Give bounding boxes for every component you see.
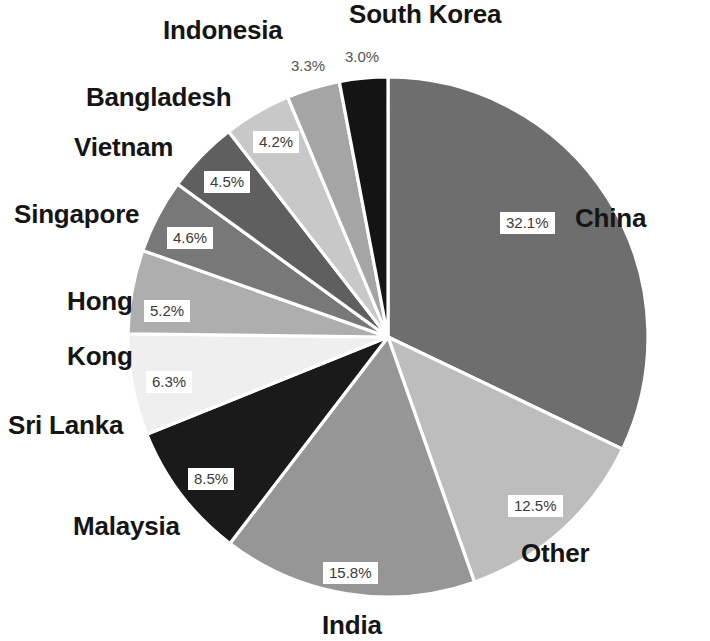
value-label-hong-kong: 5.2% xyxy=(144,300,190,322)
value-label-india: 15.8% xyxy=(323,562,378,584)
category-label-sri-lanka: Sri Lanka xyxy=(8,412,123,439)
value-label-other: 12.5% xyxy=(508,495,563,517)
category-label-china: China xyxy=(575,205,646,232)
category-label-hong-kong: Hong Kong xyxy=(39,261,133,397)
value-label-malaysia: 8.5% xyxy=(188,468,234,490)
category-label-hong-kong-line1: Hong xyxy=(67,286,133,316)
pie-slice-group xyxy=(128,77,648,597)
category-label-singapore: Singapore xyxy=(14,201,139,228)
value-label-bangladesh: 4.2% xyxy=(253,131,299,153)
value-label-sri-lanka: 6.3% xyxy=(146,371,192,393)
category-label-bangladesh: Bangladesh xyxy=(86,84,231,111)
category-label-malaysia: Malaysia xyxy=(73,513,180,540)
category-label-india: India xyxy=(322,612,382,639)
pie-chart-figure: China Other India Malaysia Sri Lanka Hon… xyxy=(0,0,710,641)
category-label-other: Other xyxy=(521,540,589,567)
category-label-vietnam: Vietnam xyxy=(74,134,173,161)
value-label-south-korea: 3.0% xyxy=(345,48,379,65)
value-label-vietnam: 4.5% xyxy=(204,171,250,193)
category-label-hong-kong-line2: Kong xyxy=(67,341,133,371)
category-label-south-korea: South Korea xyxy=(349,1,501,28)
category-label-indonesia: Indonesia xyxy=(163,17,283,44)
value-label-indonesia: 3.3% xyxy=(291,57,325,74)
value-label-singapore: 4.6% xyxy=(167,227,213,249)
value-label-china: 32.1% xyxy=(500,212,555,234)
